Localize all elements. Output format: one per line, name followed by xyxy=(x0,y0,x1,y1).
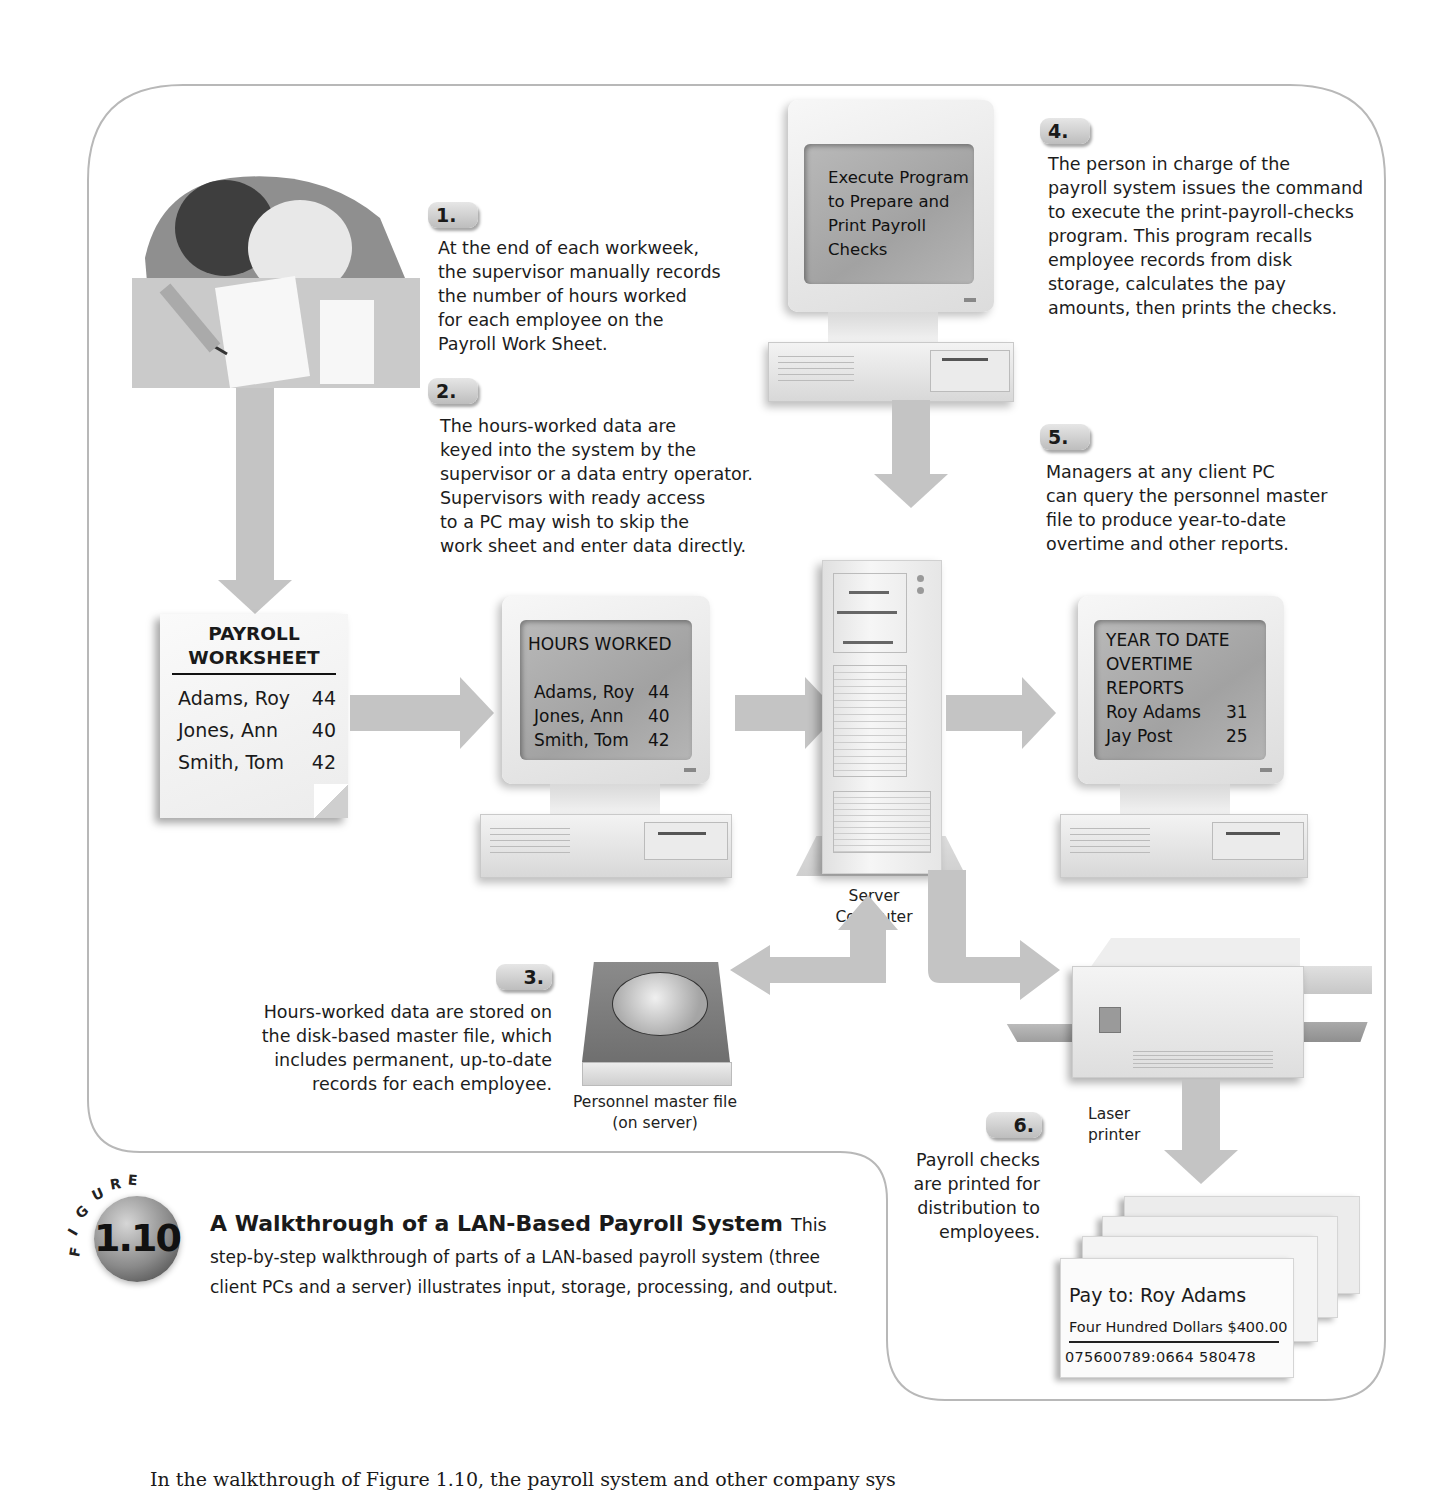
payroll-check-front: Pay to: Roy Adams Four Hundred Dollars $… xyxy=(1060,1258,1294,1378)
monitor-stand xyxy=(828,312,938,342)
vents xyxy=(778,356,854,384)
page-curl xyxy=(314,784,348,818)
step-text-6: Payroll checks are printed for distribut… xyxy=(880,1148,1040,1244)
step-text-3: Hours-worked data are stored on the disk… xyxy=(232,1000,552,1096)
figure-letter: G xyxy=(72,1202,91,1221)
power-led xyxy=(964,298,976,302)
step-text-4: The person in charge of the payroll syst… xyxy=(1048,152,1363,320)
screen-row: Roy Adams31 xyxy=(1106,700,1201,724)
check-amount: Four Hundred Dollars $400.00 xyxy=(1069,1317,1287,1337)
screen-row: Adams, Roy44 xyxy=(534,680,634,704)
figure-letter: I xyxy=(64,1226,80,1239)
printer-vents xyxy=(1133,1051,1273,1071)
drive-slot xyxy=(1226,832,1280,835)
indicator-light xyxy=(917,575,924,582)
employee-name: Jones, Ann xyxy=(178,719,278,741)
overtime-hours: 25 xyxy=(1226,724,1248,748)
screen-text: Execute Program to Prepare and Print Pay… xyxy=(828,166,969,262)
printer-button xyxy=(1099,1007,1121,1033)
vents xyxy=(1070,828,1150,858)
arrow-printer-to-checks xyxy=(1182,1080,1220,1150)
drive-slot xyxy=(849,591,889,594)
paper-tray xyxy=(1302,966,1372,994)
arrow-server-disk-printer xyxy=(720,870,1070,1050)
figure-number: 1.10 xyxy=(94,1214,180,1262)
figure-caption-body: step-by-step walkthrough of parts of a L… xyxy=(210,1242,840,1302)
printer-top xyxy=(1090,938,1300,968)
figure-letter: F xyxy=(66,1246,83,1258)
disk-drive xyxy=(930,350,1010,392)
employee-name: Adams, Roy xyxy=(534,682,634,702)
step-text-2: The hours-worked data are keyed into the… xyxy=(440,414,753,558)
arrow-pc-to-server xyxy=(735,695,805,731)
payroll-worksheet: PAYROLL WORKSHEET Adams, Roy 44 Jones, A… xyxy=(160,614,348,818)
drive-slot xyxy=(942,358,988,361)
screen-title: YEAR TO DATE OVERTIME REPORTS xyxy=(1106,628,1229,700)
worksheet-rule xyxy=(172,673,336,675)
check-micr-line: 075600789:0664 580478 xyxy=(1065,1347,1271,1367)
power-led xyxy=(684,768,696,772)
employee-name: Smith, Tom xyxy=(178,751,284,773)
overtime-hours: 31 xyxy=(1226,700,1248,724)
figure-letter: U xyxy=(89,1184,106,1203)
monitor-stand xyxy=(550,784,660,814)
figure-caption-lead: This xyxy=(791,1215,827,1235)
indicator-light xyxy=(917,587,924,594)
employee-hours: 40 xyxy=(648,704,670,728)
employee-name: Jay Post xyxy=(1106,726,1172,746)
check-rule xyxy=(1069,1341,1279,1343)
employee-name: Smith, Tom xyxy=(534,730,629,750)
master-file-label: Personnel master file (on server) xyxy=(560,1092,750,1134)
server-computer xyxy=(822,560,942,874)
figure-caption-title: A Walkthrough of a LAN-Based Payroll Sys… xyxy=(210,1208,827,1241)
arrow-person-to-worksheet xyxy=(236,388,274,580)
client-pc-execute: Execute Program to Prepare and Print Pay… xyxy=(768,100,1014,400)
employee-hours: 42 xyxy=(648,728,670,752)
monitor-stand xyxy=(1120,784,1230,814)
disk-front xyxy=(582,1062,732,1086)
screen-row: Jones, Ann40 xyxy=(534,704,624,728)
worksheet-row: Jones, Ann 40 xyxy=(178,718,336,742)
figure-number-badge: 1.10 xyxy=(94,1196,180,1282)
figure-letter: E xyxy=(127,1172,138,1189)
employee-name: Roy Adams xyxy=(1106,702,1201,722)
employee-hours: 42 xyxy=(312,750,336,774)
disk-drive xyxy=(644,822,728,860)
drive-bay xyxy=(833,791,931,853)
drive-slot xyxy=(843,641,893,644)
hard-disk xyxy=(582,962,730,1087)
step-text-5: Managers at any client PC can query the … xyxy=(1046,460,1327,556)
screen-title: HOURS WORKED xyxy=(528,632,672,656)
screen-row: Jay Post25 xyxy=(1106,724,1172,748)
worksheet-row: Adams, Roy 44 xyxy=(178,686,336,710)
drive-slot xyxy=(837,611,897,614)
screen-row: Smith, Tom42 xyxy=(534,728,629,752)
step-badge-3: 3. xyxy=(496,964,552,990)
step-badge-1: 1. xyxy=(428,202,478,228)
vents xyxy=(490,828,570,858)
employee-hours: 44 xyxy=(648,680,670,704)
employee-hours: 40 xyxy=(312,718,336,742)
arrow-server-to-report-pc xyxy=(946,695,1022,731)
body-paragraph: In the walkthrough of Figure 1.10, the p… xyxy=(150,1468,896,1490)
employee-name: Adams, Roy xyxy=(178,687,290,709)
drive-slot xyxy=(658,832,706,835)
client-pc-hours: HOURS WORKED Adams, Roy44 Jones, Ann40 S… xyxy=(480,596,730,881)
disk-drive xyxy=(1212,822,1304,860)
disk-platter xyxy=(612,972,708,1036)
arrow-execute-to-server xyxy=(892,400,930,474)
figure-title: A Walkthrough of a LAN-Based Payroll Sys… xyxy=(210,1211,783,1236)
arrow-worksheet-to-pc xyxy=(350,695,460,731)
step-badge-4: 4. xyxy=(1040,118,1090,144)
figure-letter: R xyxy=(109,1175,122,1193)
worksheet-row: Smith, Tom 42 xyxy=(178,750,336,774)
step-text-1: At the end of each workweek, the supervi… xyxy=(438,236,721,356)
worksheet-title: PAYROLL WORKSHEET xyxy=(160,622,348,670)
drive-bay xyxy=(833,665,907,777)
step-badge-5: 5. xyxy=(1040,424,1090,450)
printer-label: Laser printer xyxy=(1088,1104,1140,1146)
printer-body xyxy=(1072,966,1304,1078)
supervisor-illustration xyxy=(120,168,420,388)
client-pc-report: YEAR TO DATE OVERTIME REPORTS Roy Adams3… xyxy=(1060,596,1310,881)
employee-name: Jones, Ann xyxy=(534,706,624,726)
